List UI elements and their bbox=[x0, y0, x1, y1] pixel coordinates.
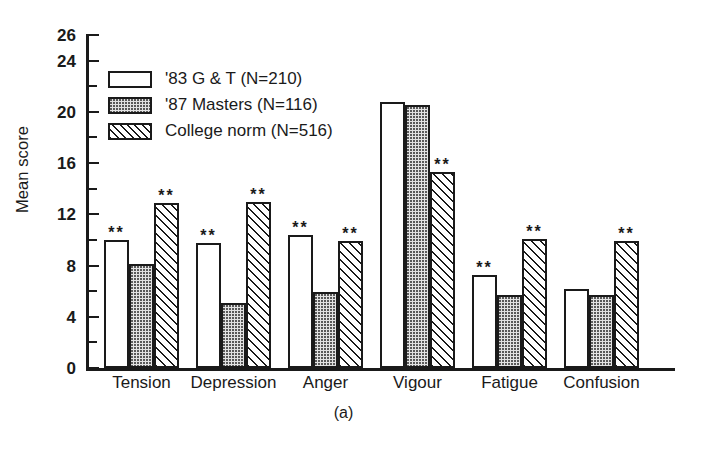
legend-swatch-open bbox=[108, 71, 152, 88]
figure-caption-text: (a) bbox=[334, 404, 354, 421]
bar: ** bbox=[288, 235, 313, 368]
figure-caption: (a) bbox=[0, 404, 701, 422]
legend-item: '83 G & T (N=210) bbox=[108, 66, 438, 92]
bar: ** bbox=[430, 172, 455, 368]
bar bbox=[221, 303, 246, 368]
bar: ** bbox=[196, 243, 221, 369]
y-tick-label: 24 bbox=[42, 52, 76, 69]
bar: ** bbox=[104, 240, 129, 368]
bar: ** bbox=[154, 203, 179, 368]
x-axis-line bbox=[86, 368, 675, 371]
x-axis-category-label: Confusion bbox=[563, 372, 640, 393]
bar: ** bbox=[522, 239, 547, 368]
legend-label: College norm (N=516) bbox=[165, 121, 333, 141]
significance-marker: ** bbox=[292, 220, 308, 236]
significance-marker: ** bbox=[526, 224, 542, 240]
x-axis-category-label: Anger bbox=[303, 372, 348, 393]
y-tick-label: 16 bbox=[42, 155, 76, 172]
significance-marker: ** bbox=[476, 260, 492, 276]
y-axis-label: Mean score bbox=[13, 110, 32, 230]
legend-swatch-diagonal-hatch bbox=[108, 123, 152, 140]
bar bbox=[380, 102, 405, 368]
y-tick-label: 0 bbox=[42, 360, 76, 377]
x-axis-category-label: Fatigue bbox=[481, 372, 538, 393]
bar: ** bbox=[614, 241, 639, 368]
y-tick-label: 12 bbox=[42, 206, 76, 223]
significance-marker: ** bbox=[618, 226, 634, 242]
y-tick-label: 4 bbox=[42, 308, 76, 325]
y-axis-tick-labels: 0481216202426 bbox=[42, 0, 76, 454]
bar bbox=[589, 295, 614, 368]
significance-marker: ** bbox=[434, 157, 450, 173]
significance-marker: ** bbox=[250, 187, 266, 203]
x-axis-category-label: Vigour bbox=[393, 372, 442, 393]
bar: ** bbox=[246, 202, 271, 369]
x-axis-category-labels: TensionDepressionAngerVigourFatigueConfu… bbox=[86, 372, 675, 398]
bar bbox=[405, 105, 430, 368]
significance-marker: ** bbox=[108, 225, 124, 241]
bar bbox=[313, 292, 338, 368]
significance-marker: ** bbox=[200, 228, 216, 244]
y-tick-label: 26 bbox=[42, 27, 76, 44]
legend-swatch-stippled bbox=[108, 97, 152, 114]
y-tick-label: 20 bbox=[42, 103, 76, 120]
legend-label: '83 G & T (N=210) bbox=[165, 69, 302, 89]
significance-marker: ** bbox=[342, 226, 358, 242]
bar-chart-figure: Mean score 0481216202426 ***************… bbox=[0, 0, 701, 454]
legend-label: '87 Masters (N=116) bbox=[165, 95, 318, 115]
significance-marker: ** bbox=[158, 188, 174, 204]
y-tick-label: 8 bbox=[42, 257, 76, 274]
bar bbox=[129, 264, 154, 368]
bar: ** bbox=[472, 275, 497, 368]
bar bbox=[564, 289, 589, 368]
x-axis-category-label: Tension bbox=[112, 372, 171, 393]
x-axis-category-label: Depression bbox=[191, 372, 277, 393]
bar bbox=[497, 295, 522, 368]
bar: ** bbox=[338, 241, 363, 368]
